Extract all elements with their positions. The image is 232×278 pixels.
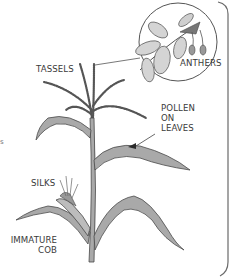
label-immature-cob: IMMATURE COB xyxy=(5,235,57,255)
immature-cob xyxy=(56,176,90,236)
anther-magnifier xyxy=(95,3,217,83)
label-tassels: TASSELS xyxy=(36,64,74,74)
edge-text-fragment: s xyxy=(0,138,4,146)
leaf-pollen xyxy=(94,145,190,170)
label-silks: SILKS xyxy=(31,178,55,188)
leaf-upper-left xyxy=(36,117,91,141)
corn-plant-diagram: s TASSELS ANTHERS POLLEN ON LEAVES SILKS… xyxy=(0,0,232,278)
leaf-lower-right xyxy=(94,196,184,250)
frame-bracket xyxy=(218,2,228,276)
label-pollen-on-leaves: POLLEN ON LEAVES xyxy=(161,103,195,133)
label-anthers: ANTHERS xyxy=(180,58,222,68)
